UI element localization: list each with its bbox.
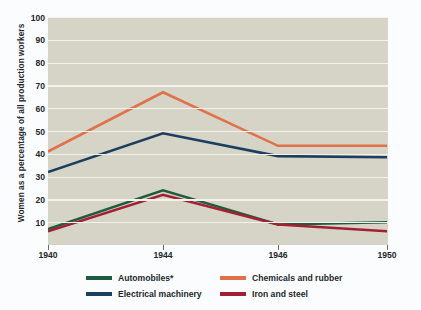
x-tick-label-1950: 1950 [364, 250, 410, 260]
x-tick-label-1946: 1946 [255, 250, 301, 260]
y-tick-label-10: 10 [19, 218, 45, 228]
x-tickmark-1940 [48, 245, 49, 250]
y-tick-label-30: 30 [19, 172, 45, 182]
gridline-80 [48, 63, 388, 64]
x-tickmark-1944 [163, 245, 164, 250]
gridline-40 [48, 154, 388, 155]
x-tickmark-1950 [387, 245, 388, 250]
x-tick-label-1940: 1940 [25, 250, 71, 260]
y-tick-label-40: 40 [19, 149, 45, 159]
legend-swatch-chemicals-and-rubber [220, 276, 246, 280]
gridline-70 [48, 85, 388, 86]
legend-swatch-electrical-machinery [86, 292, 112, 296]
y-tick-label-60: 60 [19, 104, 45, 114]
legend-swatch-automobiles [86, 276, 112, 280]
gridline-100 [48, 17, 388, 18]
y-tick-label-80: 80 [19, 58, 45, 68]
legend-item-iron-and-steel[interactable]: Iron and steel [220, 289, 406, 299]
legend-item-electrical-machinery[interactable]: Electrical machinery [86, 289, 220, 299]
chart-figure: Women as a percentage of all production … [0, 0, 421, 310]
legend-item-automobiles[interactable]: Automobiles* [86, 273, 220, 283]
y-tick-label-90: 90 [19, 35, 45, 45]
series-line-electrical-machinery [48, 133, 387, 172]
gridline-60 [48, 108, 388, 109]
x-tickmark-1946 [278, 245, 279, 250]
legend-label-electrical-machinery: Electrical machinery [118, 289, 202, 299]
legend-item-chemicals-and-rubber[interactable]: Chemicals and rubber [220, 273, 406, 283]
gridline-10 [48, 222, 388, 223]
legend-label-chemicals-and-rubber: Chemicals and rubber [252, 273, 342, 283]
gridline-50 [48, 131, 388, 132]
y-tick-label-20: 20 [19, 195, 45, 205]
y-tick-label-50: 50 [19, 127, 45, 137]
y-tick-label-100: 100 [19, 13, 45, 23]
chart-legend: Automobiles* Chemicals and rubber Electr… [86, 270, 406, 302]
gridline-20 [48, 199, 388, 200]
plot-area [48, 17, 388, 245]
x-tick-label-1944: 1944 [140, 250, 186, 260]
legend-label-iron-and-steel: Iron and steel [252, 289, 308, 299]
gridline-30 [48, 177, 388, 178]
legend-label-automobiles: Automobiles* [118, 273, 173, 283]
legend-swatch-iron-and-steel [220, 292, 246, 296]
series-line-chemicals-and-rubber [48, 92, 387, 151]
y-tick-label-70: 70 [19, 81, 45, 91]
gridline-90 [48, 40, 388, 41]
